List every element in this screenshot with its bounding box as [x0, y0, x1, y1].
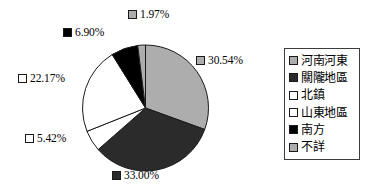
slice-label-henan-hedong: 30.54%: [196, 55, 243, 67]
slice-value-shandong: 22.17%: [30, 73, 65, 85]
pie-slice-group: [82, 45, 208, 171]
legend-swatch-buxiang: [289, 143, 298, 152]
slice-label-nanfang: 6.90%: [63, 27, 104, 39]
slice-swatch-shandong: [18, 74, 27, 83]
legend-label-nanfang: 南方: [301, 124, 324, 136]
slice-value-buxiang: 1.97%: [140, 9, 169, 21]
legend-item-nanfang: 南方: [289, 121, 357, 138]
slice-value-beizhen: 5.42%: [37, 133, 66, 145]
pie-graphic: [82, 44, 209, 172]
pie-svg: [82, 44, 209, 172]
slice-swatch-guanlong: [112, 171, 121, 180]
slice-swatch-beizhen: [25, 134, 34, 143]
legend-swatch-nanfang: [289, 125, 298, 134]
legend-item-henan-hedong: 河南河東: [289, 52, 357, 69]
legend-label-beizhen: 北鎮: [301, 89, 324, 101]
legend-item-guanlong: 關隴地區: [289, 69, 357, 86]
legend-swatch-guanlong: [289, 73, 298, 82]
slice-label-guanlong: 33.00%: [112, 170, 159, 182]
slice-value-guanlong: 33.00%: [124, 170, 159, 182]
legend-label-henan-hedong: 河南河東: [301, 55, 348, 67]
slice-value-henan-hedong: 30.54%: [208, 55, 243, 67]
slice-value-nanfang: 6.90%: [75, 27, 104, 39]
slice-swatch-henan-hedong: [196, 56, 205, 65]
slice-label-buxiang: 1.97%: [128, 9, 169, 21]
legend-item-beizhen: 北鎮: [289, 87, 357, 104]
slice-swatch-nanfang: [63, 28, 72, 37]
slice-swatch-buxiang: [128, 10, 137, 19]
pie-chart: 1.97% 6.90% 30.54% 22.17% 5.42% 33.00% 河…: [0, 0, 385, 196]
legend-swatch-henan-hedong: [289, 56, 298, 65]
legend-item-shandong: 山東地區: [289, 104, 357, 121]
legend-swatch-beizhen: [289, 91, 298, 100]
legend-label-shandong: 山東地區: [301, 107, 348, 119]
legend-item-buxiang: 不詳: [289, 138, 357, 155]
chart-legend: 河南河東 關隴地區 北鎮 山東地區 南方 不詳: [284, 48, 360, 160]
legend-swatch-shandong: [289, 108, 298, 117]
slice-label-shandong: 22.17%: [18, 73, 65, 85]
legend-label-guanlong: 關隴地區: [301, 72, 348, 84]
legend-label-buxiang: 不詳: [301, 141, 324, 153]
slice-label-beizhen: 5.42%: [25, 133, 66, 145]
